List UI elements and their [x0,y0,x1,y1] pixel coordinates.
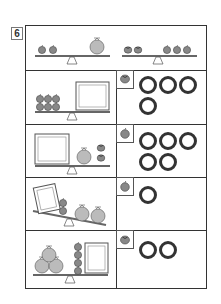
answer-circle [159,132,177,150]
answer-circle [139,76,157,94]
answer-circle [159,241,177,259]
example-balances [0,0,221,304]
answer-circle [139,97,157,115]
persimmon-icon [117,231,135,250]
answer-circle [139,153,157,171]
row-1-scene [35,82,110,120]
answer-circle [179,76,197,94]
apple-icon [117,178,135,197]
example-balance-1 [35,38,110,64]
answer-icon-cell-3 [116,177,134,196]
apple-icon [117,125,135,144]
row-3-scene [33,184,106,226]
row-4-scene [33,242,108,283]
answer-icon-cell-1 [116,70,134,89]
answer-circle [159,153,177,171]
row-2-scene [35,134,110,174]
answer-circle [139,132,157,150]
answer-circle [139,186,157,204]
answer-icon-cell-4 [116,230,134,249]
persimmon-icon [117,71,135,90]
answer-circle [179,132,197,150]
answer-circle [159,76,177,94]
example-balance-2 [122,45,197,64]
answer-circle [139,241,157,259]
answer-icon-cell-2 [116,124,134,143]
